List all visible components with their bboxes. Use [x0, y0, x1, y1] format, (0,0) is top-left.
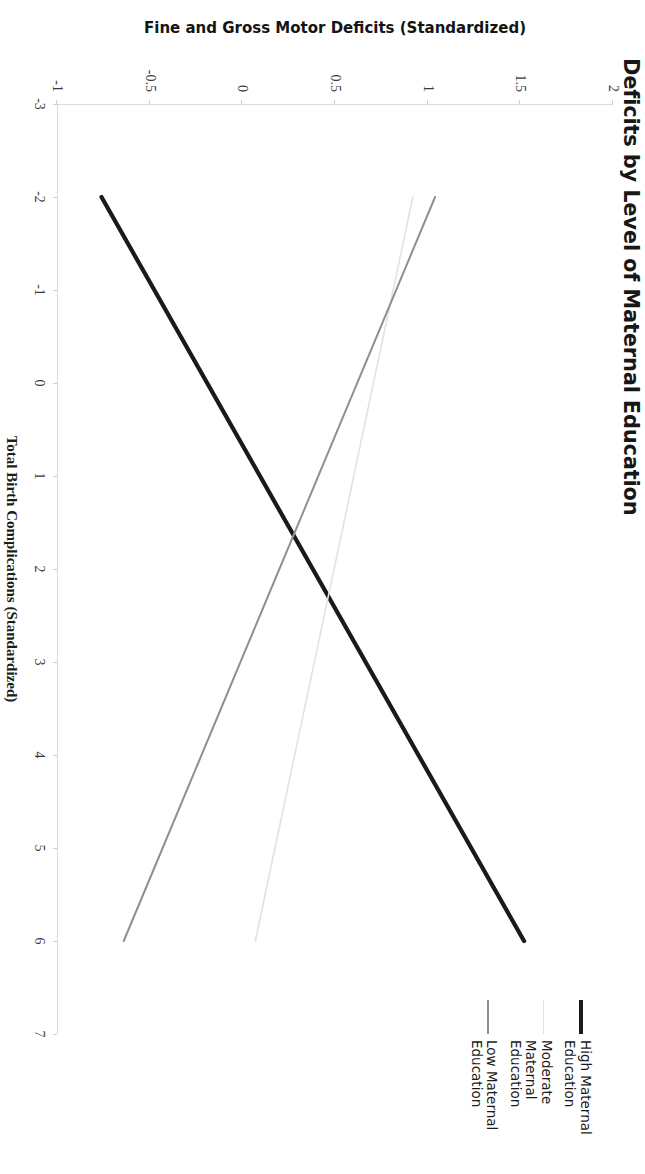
x-tick-label: 7 — [31, 1031, 47, 1038]
x-tick-label: 1 — [31, 473, 47, 480]
y-tick-label: 0.5 — [327, 75, 343, 93]
x-tick-label: -2 — [31, 191, 47, 203]
x-axis-title: Total Birth Complications (Standardized) — [3, 436, 20, 703]
x-tick-label: -1 — [31, 284, 47, 296]
y-tick-label: 0 — [234, 85, 250, 92]
y-tick-label: -1 — [49, 80, 65, 92]
x-tick-label: 0 — [31, 380, 47, 387]
rotated-page-canvas: Deficits by Level of Maternal Education … — [0, 0, 645, 1174]
legend-item-label: Low Maternal Education — [469, 1040, 500, 1162]
legend-item-label: Moderate Maternal Education — [508, 1040, 555, 1162]
x-tick-label: 4 — [31, 752, 47, 759]
x-tick-label: 2 — [31, 566, 47, 573]
x-tick-label: 3 — [31, 659, 47, 666]
x-tick-label: 6 — [31, 938, 47, 945]
series-lines — [57, 104, 613, 1034]
legend-item[interactable]: Moderate Maternal Education — [508, 1000, 555, 1168]
figure-title: Deficits by Level of Maternal Education — [619, 58, 643, 758]
figure-panel: Deficits by Level of Maternal Education … — [0, 0, 645, 1174]
x-tick-mark — [53, 1034, 57, 1035]
y-tick-label: 1.5 — [512, 75, 528, 93]
legend-item[interactable]: Low Maternal Education — [469, 1000, 500, 1168]
legend-line-swatch — [532, 1000, 554, 1034]
plot-area: -3-2-101234567 -1-0.500.511.52 Total Bir… — [57, 104, 613, 1034]
y-tick-label: 2 — [605, 85, 621, 92]
legend: High Maternal EducationModerate Maternal… — [461, 1000, 594, 1168]
series-line — [101, 197, 524, 941]
y-tick-label: -0.5 — [142, 70, 158, 92]
x-tick-label: 5 — [31, 845, 47, 852]
legend-line-swatch — [571, 1000, 593, 1034]
y-tick-label: 1 — [420, 85, 436, 92]
legend-item[interactable]: High Maternal Education — [562, 1000, 593, 1168]
legend-item-label: High Maternal Education — [562, 1040, 593, 1162]
legend-line-swatch — [478, 1000, 500, 1034]
y-axis-title: Fine and Gross Motor Deficits (Standardi… — [144, 19, 526, 37]
x-tick-label: -3 — [31, 98, 47, 110]
